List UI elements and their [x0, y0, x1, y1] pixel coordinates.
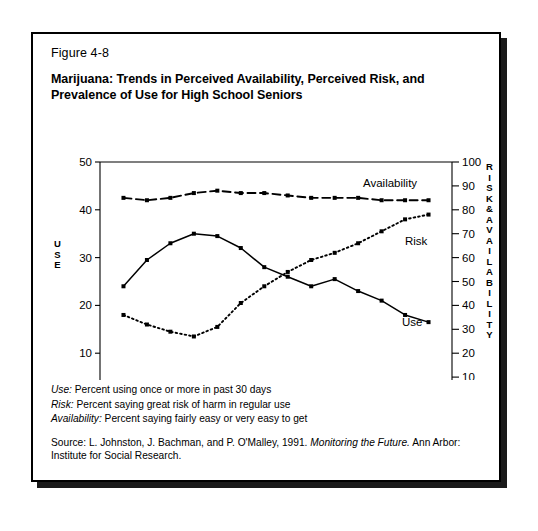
source-lead: Source: L. Johnston, J. Bachman, and P. … [51, 437, 310, 448]
data-point-risk [380, 229, 384, 233]
data-point-use [239, 246, 243, 250]
data-point-availability [239, 191, 243, 195]
data-point-use [145, 258, 149, 262]
trend-line-chart: 0102030405001020304050607080901001975197… [33, 120, 499, 380]
data-point-availability [262, 191, 266, 195]
right-axis-tick-label: 50 [462, 276, 475, 288]
series-line-use [123, 234, 428, 322]
chart-plot-area: 0102030405001020304050607080901001975197… [33, 120, 499, 380]
data-point-availability [380, 198, 384, 202]
source-publication-title: Monitoring the Future. [310, 437, 410, 448]
right-axis-tick-label: 40 [462, 299, 475, 311]
data-point-availability [192, 191, 196, 195]
source-note: Source: L. Johnston, J. Bachman, and P. … [51, 436, 487, 463]
definition-note-term: Use: [51, 384, 72, 395]
data-point-use [427, 320, 431, 324]
series-label-availability: Availability [363, 177, 417, 189]
data-point-use [215, 234, 219, 238]
data-point-use [286, 275, 290, 279]
right-axis-tick-label: 70 [462, 228, 475, 240]
data-point-availability [427, 198, 431, 202]
data-point-risk [403, 217, 407, 221]
right-axis-tick-label: 30 [462, 323, 475, 335]
right-axis-tick-label: 20 [462, 347, 475, 359]
data-point-risk [427, 213, 431, 217]
data-point-risk [286, 270, 290, 274]
data-point-risk [145, 323, 149, 327]
figure-title: Marijuana: Trends in Perceived Availabil… [51, 72, 476, 103]
series-label-use: Use [402, 316, 422, 328]
data-point-use [168, 241, 172, 245]
data-point-use [121, 284, 125, 288]
data-point-availability [309, 196, 313, 200]
figure-box: Figure 4-8 Marijuana: Trends in Perceive… [31, 32, 501, 482]
data-point-risk [239, 301, 243, 305]
left-axis-tick-label: 10 [79, 347, 92, 359]
left-axis-tick-label: 20 [79, 299, 92, 311]
data-point-risk [192, 334, 196, 338]
left-axis-tick-label: 40 [79, 204, 92, 216]
data-point-availability [333, 196, 337, 200]
definition-note-text: Percent using once or more in past 30 da… [72, 384, 271, 395]
figure-page: Figure 4-8 Marijuana: Trends in Perceive… [0, 0, 538, 531]
data-point-availability [356, 196, 360, 200]
right-axis-tick-label: 10 [462, 371, 475, 380]
data-point-risk [215, 325, 219, 329]
definition-note-term: Risk: [51, 399, 74, 410]
right-axis-tick-label: 80 [462, 204, 475, 216]
figure-number: Figure 4-8 [51, 46, 109, 60]
definition-note-row: Use: Percent using once or more in past … [51, 383, 481, 398]
series-label-risk: Risk [405, 235, 428, 247]
data-point-risk [356, 241, 360, 245]
data-point-risk [333, 251, 337, 255]
data-point-use [356, 289, 360, 293]
data-point-availability [168, 196, 172, 200]
data-point-risk [262, 284, 266, 288]
left-axis-tick-label: 50 [79, 156, 92, 168]
data-point-availability [215, 189, 219, 193]
definition-note-row: Risk: Percent saying great risk of harm … [51, 398, 481, 413]
data-point-risk [168, 330, 172, 334]
right-axis-tick-label: 100 [462, 156, 481, 168]
left-axis-tick-label: 30 [79, 252, 92, 264]
data-point-use [333, 277, 337, 281]
data-point-risk [121, 313, 125, 317]
right-axis-tick-label: 90 [462, 180, 475, 192]
data-point-availability [403, 198, 407, 202]
data-point-availability [121, 196, 125, 200]
data-point-use [309, 284, 313, 288]
data-point-availability [286, 193, 290, 197]
data-point-risk [309, 258, 313, 262]
data-point-use [380, 299, 384, 303]
right-axis-tick-label: 60 [462, 252, 475, 264]
data-point-use [262, 265, 266, 269]
definition-note-text: Percent saying fairly easy or very easy … [102, 413, 308, 424]
definition-note-row: Availability: Percent saying fairly easy… [51, 412, 481, 427]
definition-note-term: Availability: [51, 413, 102, 424]
data-point-use [192, 232, 196, 236]
data-point-availability [145, 198, 149, 202]
definition-notes: Use: Percent using once or more in past … [51, 383, 481, 427]
definition-note-text: Percent saying great risk of harm in reg… [74, 399, 291, 410]
